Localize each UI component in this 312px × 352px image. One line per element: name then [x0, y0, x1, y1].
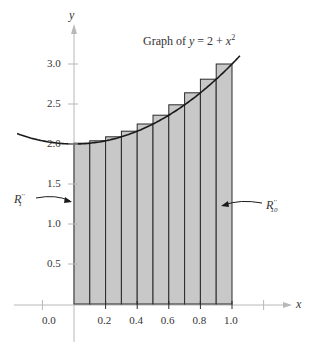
r1-sup: ′′: [21, 192, 24, 200]
r1-arrowhead-icon: [64, 197, 72, 203]
x-tick-label: 0.2: [98, 315, 112, 326]
r1-annotation: R′′1: [14, 193, 22, 208]
y-tick-label: 2.5: [47, 98, 61, 109]
y-axis-arrow-icon: [71, 24, 77, 34]
riemann-rectangle: [169, 105, 185, 304]
chart-title: Graph of y = 2 + x2: [143, 34, 235, 47]
r10-annotation: R′′10: [266, 199, 277, 214]
y-tick-label: 0.5: [47, 258, 61, 269]
r10-sup: ′′: [273, 198, 276, 206]
title-eq: = 2 +: [194, 34, 226, 48]
riemann-rectangle: [121, 131, 137, 304]
riemann-rectangle: [153, 115, 169, 304]
x-tick-label: 0.4: [129, 315, 143, 326]
x-tick-label: 0.8: [192, 315, 206, 326]
x-tick-label: 0.0: [42, 315, 56, 326]
riemann-rectangle: [90, 141, 106, 304]
title-prefix: Graph of: [143, 34, 189, 48]
riemann-rectangle: [185, 93, 201, 304]
y-tick-label: 1.0: [47, 218, 61, 229]
riemann-rectangle: [216, 64, 232, 304]
r1-sub: 1: [18, 200, 22, 208]
riemann-sum-chart: Graph of y = 2 + x2 y x R′′1 R′′10 0.51.…: [0, 0, 312, 352]
x-axis-label: x: [296, 298, 301, 310]
y-tick-label: 1.5: [47, 178, 61, 189]
r10-sub: 10: [270, 206, 277, 214]
x-tick-label: 0.6: [161, 315, 175, 326]
y-tick-label: 2.0: [47, 138, 61, 149]
y-axis-label: y: [69, 9, 74, 21]
riemann-rectangle: [200, 79, 216, 304]
x-tick-label: 1.0: [224, 315, 238, 326]
riemann-rectangle: [137, 124, 153, 304]
y-tick-label: 3.0: [47, 58, 61, 69]
x-axis-arrow-icon: [283, 302, 292, 308]
title-exp: 2: [231, 33, 235, 42]
riemann-rectangle: [106, 137, 122, 304]
plot-area: [0, 0, 312, 352]
